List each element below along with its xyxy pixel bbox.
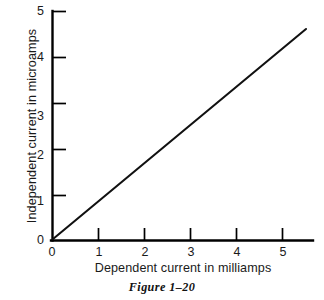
x-tick-label-4: 4 <box>230 246 244 259</box>
x-tick-label-1: 1 <box>92 246 106 259</box>
figure-caption: Figure 1–20 <box>0 280 324 295</box>
x-tick-label-2: 2 <box>138 246 152 259</box>
y-axis-title: Independent current in microamps <box>25 13 39 239</box>
figure-container: 5 4 3 2 1 0 0 1 2 3 4 5 Independent curr… <box>0 0 324 300</box>
x-tick-label-5: 5 <box>276 246 290 259</box>
x-tick-label-0: 0 <box>45 246 59 259</box>
x-tick-label-3: 3 <box>184 246 198 259</box>
data-line-series-1 <box>53 29 306 239</box>
x-axis-title: Dependent current in milliamps <box>52 261 314 275</box>
